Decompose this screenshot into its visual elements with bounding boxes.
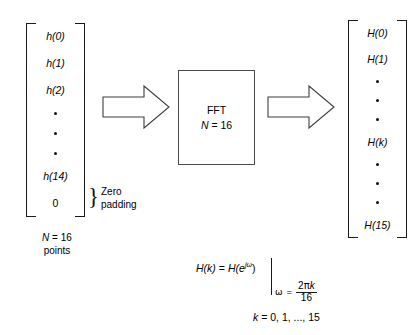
equation-main-line: H(k)=H(ejω) — [196, 261, 255, 273]
input-arrow — [103, 84, 171, 130]
index-values: = 0, 1, ..., 15 — [258, 311, 320, 323]
vector-element: h(0) — [46, 31, 65, 42]
vector-element: h(2) — [46, 85, 65, 96]
vector-element: H(0) — [367, 28, 387, 39]
ellipsis-dot — [376, 163, 379, 166]
zero-padding-label-line2: padding — [101, 199, 137, 212]
zero-padding-brace: } — [88, 185, 99, 208]
numerator-k: k — [310, 280, 315, 291]
numerator-coeff: 2 — [298, 280, 304, 291]
vector-element: H(k) — [368, 137, 388, 148]
substitution-equals: = — [283, 287, 297, 297]
input-length-line2: points — [32, 244, 82, 257]
vector-element: H(1) — [367, 54, 387, 65]
fft-block-title: FFT — [207, 103, 226, 117]
omega-symbol: ω — [275, 288, 283, 297]
input-vector: h(0) h(1) h(2) h(14) 0 — [26, 23, 85, 217]
pi-symbol: π — [304, 280, 310, 291]
zero-padding-label-line1: Zero — [101, 186, 137, 199]
output-arrow — [268, 84, 336, 130]
ellipsis-dot — [376, 99, 379, 102]
zero-padding-label: Zero padding — [101, 186, 137, 212]
equation-equals: = — [216, 262, 228, 274]
vector-element: H(15) — [364, 220, 390, 231]
fft-block-size: N = 16 — [201, 118, 232, 132]
index-variable: k — [253, 311, 258, 323]
vector-element-zero: 0 — [53, 198, 59, 209]
ellipsis-dot — [376, 80, 379, 83]
output-vector-items: H(0) H(1) H(k) H(15) — [357, 20, 398, 238]
ellipsis-dot — [54, 132, 57, 135]
n-value: = 16 — [49, 232, 72, 243]
ellipsis-dot — [376, 201, 379, 204]
ellipsis-dot — [54, 112, 57, 115]
equation-rhs-close: ) — [252, 262, 256, 274]
vector-element: h(14) — [43, 171, 68, 182]
ellipsis-dot — [54, 152, 57, 155]
evaluation-bar — [271, 258, 272, 295]
vector-element: h(1) — [46, 58, 65, 69]
input-vector-items: h(0) h(1) h(2) h(14) 0 — [35, 23, 76, 217]
input-length-caption: N = 16 points — [32, 231, 82, 257]
fraction-numerator: 2πk — [296, 281, 317, 292]
equation-rhs-base: H(e — [228, 262, 245, 274]
equation-substitution: ω= 2πk 16 — [275, 281, 317, 303]
fraction-denominator: 16 — [301, 293, 312, 304]
equation-exponent: jω — [245, 261, 252, 268]
ellipsis-dot — [376, 118, 379, 121]
output-bracket-right — [397, 20, 407, 238]
output-vector: H(0) H(1) H(k) H(15) — [348, 20, 407, 238]
fft-n-value: = 16 — [208, 119, 232, 131]
frequency-fraction: 2πk 16 — [296, 281, 317, 303]
input-bracket-right — [75, 23, 85, 217]
equation-lhs: H(k) — [196, 262, 216, 274]
index-range-line: k = 0, 1, ..., 15 — [253, 312, 320, 323]
fraction-bar — [296, 292, 317, 293]
ellipsis-dot — [376, 182, 379, 185]
input-length-line1: N = 16 — [32, 231, 82, 244]
diagram-canvas: h(0) h(1) h(2) h(14) 0 } Zero padding N … — [0, 0, 419, 335]
fft-block: FFT N = 16 — [178, 70, 255, 165]
